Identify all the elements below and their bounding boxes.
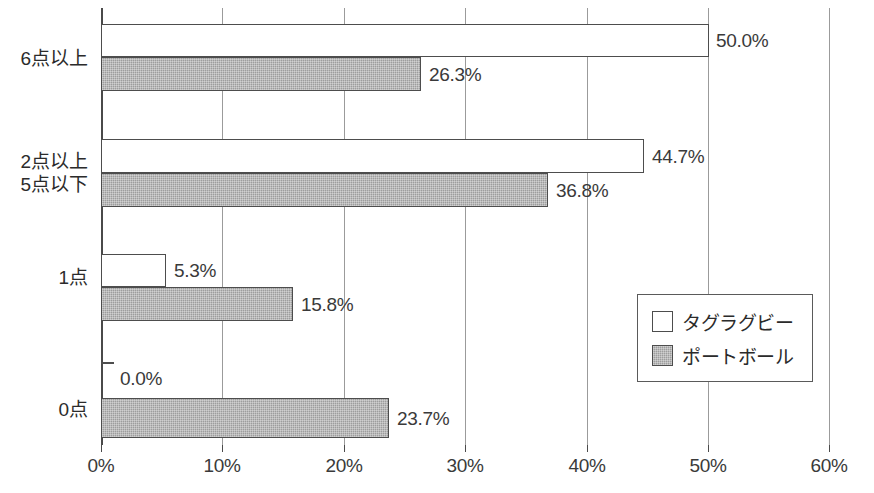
gridline-60 (829, 8, 830, 445)
x-tick-label-60: 60% (810, 455, 847, 477)
category-label-2ten-ijou-5ten-ika: 2点以上 5点以下 (20, 150, 88, 196)
tick-20 (344, 445, 345, 452)
bar-portball-1ten (101, 287, 293, 321)
x-tick-label-30: 30% (446, 455, 483, 477)
value-label-portball-1ten: 15.8% (301, 294, 353, 316)
bar-portball-2ten-5ten (101, 173, 548, 207)
bar-tagrugby-6ten-ijou (101, 24, 709, 57)
tick-40 (587, 445, 588, 452)
gridline-40 (587, 8, 588, 445)
x-tick-label-0: 0% (88, 455, 115, 477)
tick-30 (465, 445, 466, 452)
category-label-0ten: 0点 (58, 398, 88, 421)
legend-label-portball: ポートボール (682, 342, 793, 369)
legend-label-tagrugby: タグラグビー (682, 308, 793, 335)
category-label-line-1: 2点以上 (20, 150, 88, 173)
legend-swatch-white-icon (652, 311, 673, 332)
category-label-6ten-ijou: 6点以上 (20, 47, 88, 70)
x-tick-label-20: 20% (325, 455, 362, 477)
legend-swatch-gray-icon (652, 345, 673, 366)
tick-50 (708, 445, 709, 452)
tick-10 (222, 445, 223, 452)
bar-portball-0ten (101, 398, 389, 438)
value-label-tagrugby-6ten-ijou: 50.0% (716, 30, 768, 52)
bottom-crop-artifact (0, 486, 874, 493)
bar-tagrugby-0ten (101, 362, 114, 364)
value-label-portball-0ten: 23.7% (397, 408, 449, 430)
x-tick-label-50: 50% (689, 455, 726, 477)
legend-item-tagrugby: タグラグビー (652, 304, 812, 338)
bar-portball-6ten-ijou (101, 57, 421, 91)
tick-60 (829, 445, 830, 452)
value-label-tagrugby-2ten-5ten: 44.7% (652, 146, 704, 168)
bar-tagrugby-2ten-5ten (101, 139, 644, 173)
x-tick-label-10: 10% (203, 455, 240, 477)
chart-legend: タグラグビー ポートボール (637, 294, 813, 382)
value-label-tagrugby-0ten: 0.0% (120, 368, 162, 390)
category-label-line-2: 5点以下 (20, 173, 88, 196)
value-label-tagrugby-1ten: 5.3% (174, 260, 216, 282)
x-tick-label-40: 40% (568, 455, 605, 477)
legend-item-portball: ポートボール (652, 338, 812, 372)
tick-0 (101, 445, 102, 452)
value-label-portball-2ten-5ten: 36.8% (556, 180, 608, 202)
category-label-1ten: 1点 (58, 266, 88, 289)
value-label-portball-6ten-ijou: 26.3% (429, 64, 481, 86)
bar-tagrugby-1ten (101, 254, 166, 287)
horizontal-bar-chart: 0% 10% 20% 30% 40% 50% 60% 6点以上 2点以上 5点以… (0, 0, 874, 493)
